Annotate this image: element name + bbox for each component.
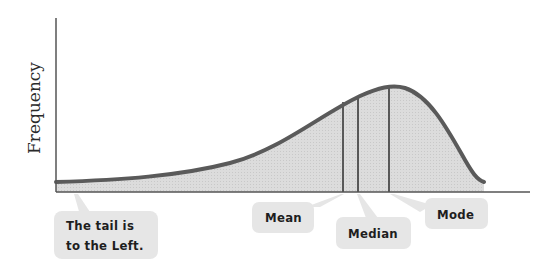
y-axis-label: Frequency: [24, 62, 44, 154]
mean-label: Mean: [265, 210, 302, 225]
distribution-area: [56, 86, 484, 192]
mode-callout: Mode: [425, 198, 488, 229]
svg-text:The tail is: The tail is: [66, 218, 134, 233]
mode-label: Mode: [437, 207, 474, 222]
median-label: Median: [348, 226, 398, 241]
median-callout: Median: [336, 217, 411, 249]
tail-callout-line2: to the Left.: [66, 238, 144, 253]
skewed-distribution-diagram: Frequency The tail is to the Left. Mean …: [0, 0, 552, 275]
tail-callout-line1: The tail is: [66, 218, 134, 233]
tail-callout: The tail is to the Left.: [54, 211, 158, 259]
svg-text:to the Left.: to the Left.: [66, 238, 144, 253]
median-pointer: [357, 194, 378, 218]
mean-callout: Mean: [252, 202, 314, 233]
